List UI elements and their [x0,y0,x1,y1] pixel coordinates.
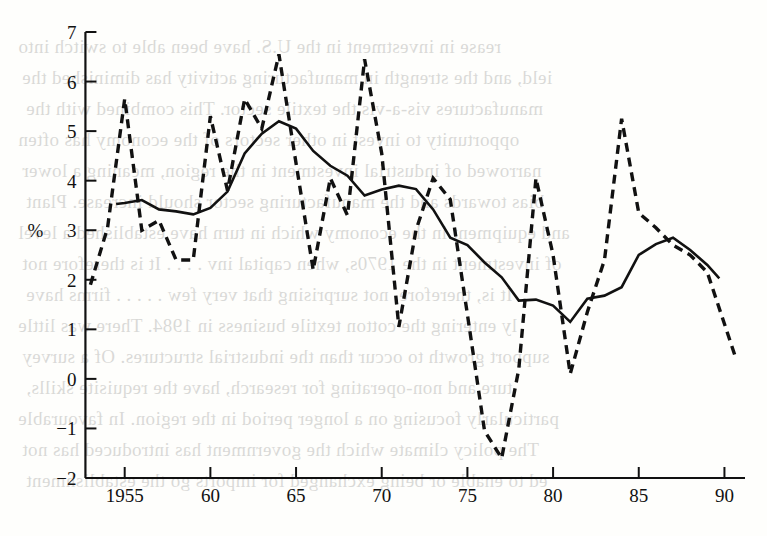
line-chart: −2−101234567195560657075808590% [0,0,767,536]
x-tick-label: 70 [372,485,391,506]
x-tick-label: 75 [458,485,477,506]
chart-axes [85,32,745,478]
x-tick-label: 85 [629,485,648,506]
y-axis-title: % [28,220,44,241]
y-tick-label: −2 [56,468,76,489]
y-tick-label: 7 [67,22,77,43]
y-tick-label: 0 [67,369,77,390]
x-tick-label: 80 [544,485,563,506]
x-tick-label: 60 [201,485,220,506]
x-tick-label: 1955 [106,485,144,506]
x-tick-label: 65 [287,485,306,506]
chart-plot-area [90,54,736,458]
x-tick-label: 90 [715,485,734,506]
y-tick-label: 2 [67,270,77,291]
y-tick-label: 4 [67,171,77,192]
y-tick-label: 3 [67,220,77,241]
y-tick-label: 6 [67,72,77,93]
y-tick-label: −1 [56,418,76,439]
chart-tick-labels: −2−101234567195560657075808590% [28,22,734,506]
y-tick-label: 5 [67,121,77,142]
y-tick-label: 1 [67,319,77,340]
figure-container: rease in investment in the U.S. have bee… [0,0,767,536]
